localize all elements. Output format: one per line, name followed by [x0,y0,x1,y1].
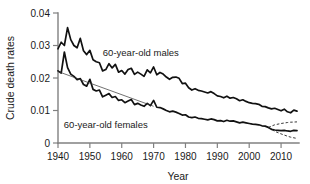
y-axis-group: 00.010.020.030.04 Crude death rates [4,8,58,149]
crude-death-rates-line-chart: 00.010.020.030.04 Crude death rates 1940… [0,0,310,184]
series-annotations: 60-year-old males60-year-old females [64,47,179,130]
x-tick-label: 1950 [79,151,102,162]
series-line-projection-upper [268,122,297,128]
x-axis-title: Year [167,170,189,182]
x-tick-label: 1940 [47,151,70,162]
x-tick-label: 2000 [238,151,261,162]
y-tick-label: 0 [44,138,50,149]
x-tick-label: 1960 [111,151,134,162]
annotation-label: 60-year-old females [64,119,148,130]
y-tick-label: 0.02 [31,73,51,84]
x-tick-label: 2010 [270,151,293,162]
y-tick-label: 0.04 [31,8,51,19]
annotation-label: 60-year-old males [103,47,179,58]
y-axis-title: Crude death rates [4,36,16,120]
y-tick-labels: 00.010.020.030.04 [31,8,51,149]
x-tick-label: 1980 [174,151,197,162]
chart-figure: 00.010.020.030.04 Crude death rates 1940… [0,0,310,184]
x-tick-labels: 19401950196019701980199020002010 [47,151,293,162]
y-tick-label: 0.03 [31,40,51,51]
y-tick-label: 0.01 [31,105,51,116]
x-tick-label: 1970 [142,151,165,162]
x-axis-group: 19401950196019701980199020002010 Year [47,143,299,182]
x-tick-label: 1990 [206,151,229,162]
x-tick-marks [58,143,281,148]
y-tick-marks [53,13,58,143]
series-line-fitted-trend [58,72,154,107]
series-line-60-year-old-males [58,28,297,113]
